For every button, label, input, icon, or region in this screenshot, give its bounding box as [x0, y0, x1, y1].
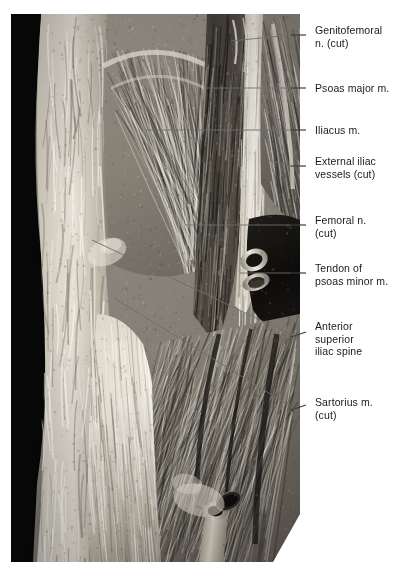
anatomy-photograph	[11, 14, 300, 562]
label-psoas-major-muscle: Psoas major m.	[315, 82, 389, 95]
label-femoral-nerve-cut: Femoral n. (cut)	[315, 214, 366, 239]
figure-page: Genitofemoral n. (cut)Psoas major m.Ilia…	[0, 0, 409, 578]
label-external-iliac-vessels-cut: External iliac vessels (cut)	[315, 155, 376, 180]
label-genitofemoral-nerve-cut: Genitofemoral n. (cut)	[315, 24, 382, 49]
label-tendon-of-psoas-minor-muscle: Tendon of psoas minor m.	[315, 262, 388, 287]
label-anterior-superior-iliac-spine: Anterior superior iliac spine	[315, 320, 362, 358]
label-sartorius-muscle-cut: Sartorius m. (cut)	[315, 396, 373, 421]
label-iliacus-muscle: Iliacus m.	[315, 124, 360, 137]
anatomy-photo-canvas	[11, 14, 300, 562]
